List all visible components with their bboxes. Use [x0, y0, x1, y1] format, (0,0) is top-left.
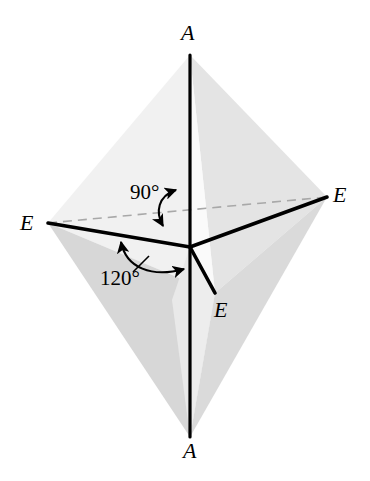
label-angle-90: 90° [130, 182, 159, 203]
label-axial-bottom: A [183, 440, 196, 462]
label-angle-120: 120° [100, 268, 140, 289]
label-axial-top: A [181, 22, 194, 44]
trigonal-bipyramid-drawing [0, 0, 370, 481]
label-equatorial-left: E [20, 212, 33, 234]
label-equatorial-front: E [214, 299, 227, 321]
trigonal-bipyramid-figure: A A E E E 90° 120° [0, 0, 370, 481]
label-equatorial-right: E [333, 184, 346, 206]
